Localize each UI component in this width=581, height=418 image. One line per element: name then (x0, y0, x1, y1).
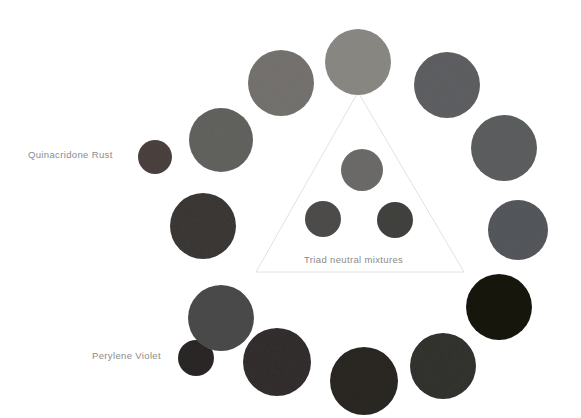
label-triad-neutral-mixtures: Triad neutral mixtures (304, 255, 403, 265)
pigment-wheel-canvas: Quinacridone Rust Perylene Violet Triad … (0, 0, 581, 418)
outer-ring-upper-left (189, 108, 253, 172)
outer-ring-top-right (414, 52, 480, 118)
label-quinacridone-rust: Quinacridone Rust (28, 150, 113, 160)
outer-ring-right (488, 200, 548, 260)
outer-ring-bottom-right (410, 333, 476, 399)
triad-neutral-bottom-left (305, 201, 341, 237)
label-perylene-violet: Perylene Violet (92, 351, 161, 361)
outer-ring-top (325, 29, 391, 95)
outer-ring-lower-left (188, 285, 254, 351)
swatch-layer (138, 29, 548, 415)
outer-ring-upper-right (471, 115, 537, 181)
outer-ring-left (170, 193, 236, 259)
outer-ring-top-left (248, 50, 314, 116)
triad-neutral-top (341, 149, 383, 191)
wheel-svg (0, 0, 581, 418)
quinacridone-rust-chip (138, 140, 172, 174)
outer-ring-bottom (330, 347, 398, 415)
outer-ring-bottom-left (243, 328, 311, 396)
triad-neutral-bottom-right (377, 202, 413, 238)
outer-ring-lower-right (466, 274, 532, 340)
